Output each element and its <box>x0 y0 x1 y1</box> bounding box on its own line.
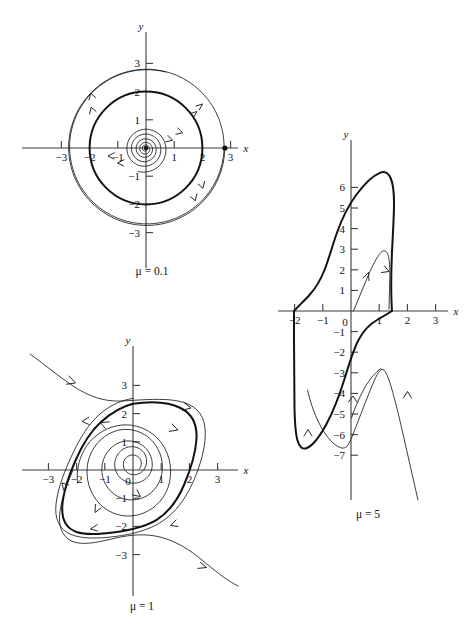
x-tick-label: 2 <box>405 314 411 326</box>
y-tick-label: 2 <box>340 264 346 276</box>
y-tick-label: 6 <box>340 181 346 193</box>
y-tick-marks <box>351 187 358 455</box>
x-axis-label: x <box>243 464 249 476</box>
y-tick-label: −7 <box>333 449 345 461</box>
y-tick-label: −2 <box>333 346 345 358</box>
y-tick-label: −3 <box>115 549 127 561</box>
panel-caption: μ = 1 <box>130 600 154 613</box>
y-tick-label: 1 <box>340 284 346 296</box>
y-tick-label: −5 <box>333 408 345 420</box>
outer-trajectory-upper-left <box>30 354 205 538</box>
panel-mu-0.1: −3 −2 −1 1 2 3 3 2 1 −1 −2 −3 x y <box>0 0 260 290</box>
y-tick-label: −1 <box>333 326 345 338</box>
x-tick-label: −3 <box>56 151 68 163</box>
y-tick-label: 3 <box>135 57 141 69</box>
x-tick-label: 3 <box>215 473 221 485</box>
x-tick-label: −1 <box>317 314 329 326</box>
x-tick-marks <box>295 304 436 311</box>
panel-caption: μ = 5 <box>356 508 380 521</box>
upper-transient-trajectory <box>354 251 390 311</box>
lower-transient-trajectory <box>308 369 419 500</box>
x-tick-label: 3 <box>228 151 234 163</box>
x-tick-label: 3 <box>433 314 439 326</box>
origin-label: 0 <box>125 475 131 487</box>
direction-arrowheads <box>304 266 412 436</box>
y-axis-label: y <box>125 334 131 346</box>
y-tick-label: −3 <box>128 227 140 239</box>
y-tick-label: 2 <box>122 408 128 420</box>
figure-van-der-pol-phase-portraits: −3 −2 −1 1 2 3 3 2 1 −1 −2 −3 x y <box>0 0 469 636</box>
x-axis-label: x <box>243 142 249 154</box>
y-tick-label: 1 <box>135 114 141 126</box>
y-tick-label: 3 <box>122 379 128 391</box>
y-tick-label: 3 <box>340 243 346 255</box>
x-tick-label: −3 <box>43 473 55 485</box>
start-point-marker <box>222 145 227 150</box>
panel-mu-5: −2 −1 0 1 2 3 6 5 4 3 2 1 −1 −2 −3 −4 −5… <box>258 118 469 530</box>
equilibrium-point-marker <box>144 146 148 150</box>
panel-mu-1: −3 −2 −1 1 2 3 0 3 2 1 −1 −2 −3 x y <box>0 318 260 618</box>
y-axis-label: y <box>343 128 349 140</box>
panel-caption: μ = 0.1 <box>136 265 169 278</box>
x-tick-label: −2 <box>71 473 83 485</box>
y-tick-label: −6 <box>333 429 345 441</box>
x-tick-label: 1 <box>171 151 177 163</box>
y-axis-label: y <box>138 20 144 32</box>
x-axis-label: x <box>453 305 459 317</box>
direction-arrowheads <box>62 376 207 568</box>
y-tick-label: −3 <box>333 367 345 379</box>
